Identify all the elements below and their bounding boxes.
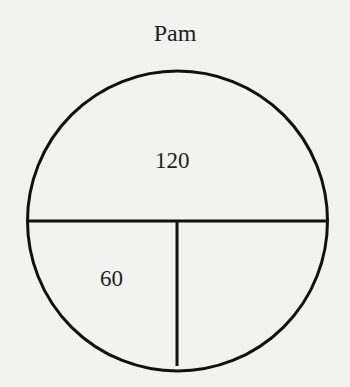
section-top-value: 120 — [155, 148, 190, 174]
section-bottom-left-value: 60 — [100, 266, 123, 292]
part-whole-circle-diagram: Pam 120 60 — [0, 0, 350, 387]
circle-diagram-shape — [0, 0, 350, 387]
